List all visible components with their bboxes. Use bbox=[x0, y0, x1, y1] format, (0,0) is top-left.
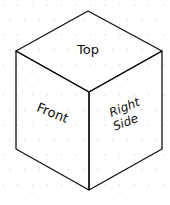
dot-grid bbox=[2, 4, 170, 200]
cube-diagram: Top Front Right Side bbox=[0, 0, 170, 205]
front-face-label: Front bbox=[35, 100, 71, 126]
cube-outline bbox=[16, 11, 162, 190]
top-face-label: Top bbox=[76, 42, 99, 57]
